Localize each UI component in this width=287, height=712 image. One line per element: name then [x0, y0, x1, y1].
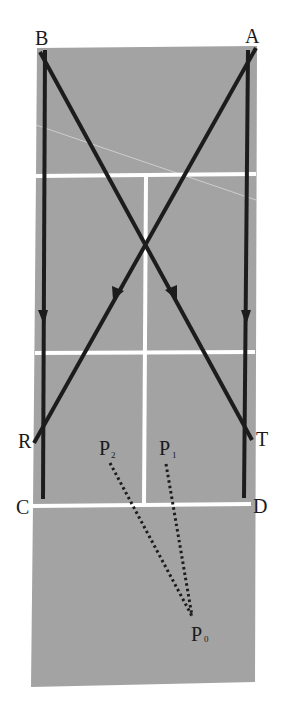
court-line-upper	[36, 174, 256, 176]
svg-text:P: P	[99, 437, 110, 459]
court-center-line	[144, 176, 146, 506]
label-c: C	[16, 496, 29, 518]
svg-text:P: P	[159, 437, 170, 459]
label-a: A	[245, 25, 260, 47]
svg-text:P: P	[191, 623, 202, 645]
svg-text:2: 2	[111, 450, 116, 460]
court-diagram: B A R T C D P 2 P 1 P 0	[0, 0, 287, 712]
label-r: R	[18, 430, 32, 452]
label-d: D	[253, 495, 267, 517]
label-b: B	[35, 27, 48, 49]
court-line-baseline-cd	[32, 504, 251, 506]
label-t: T	[256, 428, 268, 450]
svg-text:0: 0	[204, 634, 209, 644]
svg-text:1: 1	[172, 450, 177, 460]
